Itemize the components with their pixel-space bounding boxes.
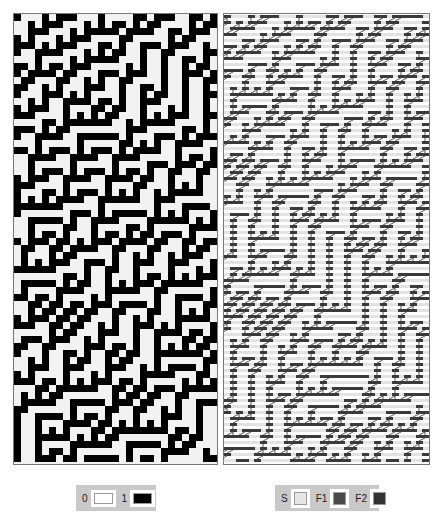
legend-label-1: 1 (122, 493, 128, 504)
legend-swatch-1 (133, 493, 152, 504)
flow-grid-canvas (224, 14, 429, 464)
legend-label-s: S (281, 493, 288, 504)
cellular-automaton-state-panel (13, 13, 218, 465)
legend-label-f1: F1 (316, 493, 328, 504)
legend-label-f2: F2 (355, 493, 367, 504)
legend-swatch-s-frame (291, 489, 310, 508)
legend-swatch-f1 (333, 492, 346, 505)
legend-swatch-s (294, 492, 307, 505)
legend-swatch-f1-frame (330, 489, 349, 508)
cellular-automaton-flow-panel (223, 13, 430, 465)
legend-swatch-f2 (373, 492, 386, 505)
legend-swatch-1-frame (130, 490, 155, 507)
flow-legend: S F1 F2 (275, 485, 379, 511)
legend-label-0: 0 (82, 493, 88, 504)
legend-swatch-f2-frame (370, 489, 389, 508)
state-legend: 0 1 (76, 485, 156, 511)
state-grid-canvas (14, 14, 217, 464)
legend-swatch-0-frame (91, 490, 116, 507)
legend-swatch-0 (94, 493, 113, 504)
